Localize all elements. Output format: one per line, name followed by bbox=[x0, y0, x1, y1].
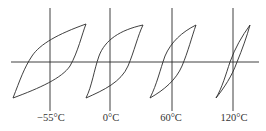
loop-minus55 bbox=[13, 24, 86, 98]
hysteresis-figure: −55°C 0°C 60°C 120°C bbox=[0, 0, 266, 131]
label-0: 0°C bbox=[103, 112, 119, 123]
loop-60 bbox=[150, 25, 196, 98]
label-minus55: −55°C bbox=[37, 112, 65, 123]
loop-0 bbox=[86, 25, 143, 98]
label-120: 120°C bbox=[221, 112, 248, 123]
label-60: 60°C bbox=[160, 112, 182, 123]
